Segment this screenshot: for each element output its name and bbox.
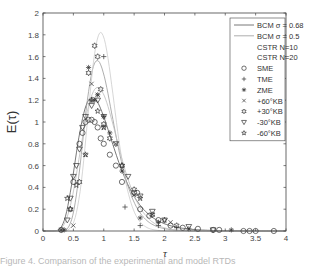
x-tick-label: 4 [284, 234, 289, 243]
y-tick-label: 1 [35, 118, 40, 127]
x-tick-label: 0.5 [68, 234, 80, 243]
y-tick-label: 0.8 [28, 140, 40, 149]
series--30-kb [68, 43, 179, 229]
x-tick-label: 3.5 [250, 234, 262, 243]
x-tick-label: 1 [102, 234, 107, 243]
legend-entry: +60°KB [257, 97, 283, 106]
legend-entry: -60°KB [257, 129, 281, 138]
y-tick-label: 1.4 [28, 74, 40, 83]
y-axis-label: E(τ) [4, 111, 19, 133]
legend-entry: BCM σ = 0.68 [257, 21, 304, 30]
rtd-chart: 00.511.522.533.5400.20.40.60.811.21.41.6… [0, 0, 326, 266]
legend-entry: TME [257, 75, 273, 84]
y-tick-label: 0.6 [28, 162, 40, 171]
x-tick-label: 2.5 [189, 234, 201, 243]
series-zme [62, 65, 234, 233]
legend-entry: SME [257, 64, 273, 73]
legend: BCM σ = 0.68BCM σ = 0.5CSTR N=10CSTR N=2… [230, 18, 304, 141]
legend-entry: ZME [257, 86, 273, 95]
y-tick-label: 1.2 [28, 96, 40, 105]
y-tick-label: 0 [35, 227, 40, 236]
x-tick-label: 1.5 [129, 234, 141, 243]
legend-entry: CSTR N=10 [257, 43, 298, 52]
y-tick-label: 0.2 [28, 205, 40, 214]
y-tick-label: 1.6 [28, 53, 40, 62]
legend-entry: +30°KB [257, 107, 283, 116]
legend-entry: -30°KB [257, 118, 281, 127]
x-tick-label: 0 [41, 234, 46, 243]
legend-entry: BCM σ = 0.5 [257, 32, 299, 41]
figure-caption: Figure 4. Comparison of the experimental… [0, 256, 235, 266]
y-tick-label: 0.4 [28, 183, 40, 192]
x-tick-label: 3 [223, 234, 228, 243]
y-tick-label: 2 [35, 9, 40, 18]
y-tick-label: 1.8 [28, 31, 40, 40]
legend-entry: CSTR N=20 [257, 53, 298, 62]
x-tick-label: 2 [162, 234, 167, 243]
